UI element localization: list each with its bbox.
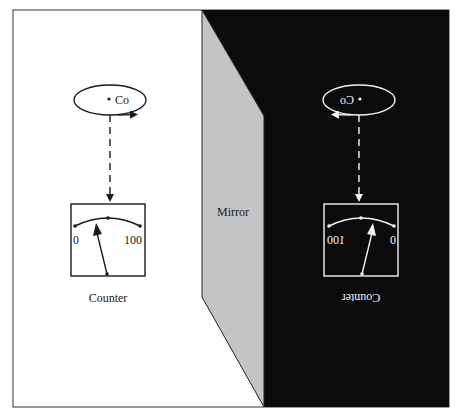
counter-label: Counter (89, 291, 128, 305)
charge-label: Co (115, 93, 129, 107)
mirror-scale-min-label: 0 (390, 233, 396, 247)
mirror-scale-min-tick (392, 224, 396, 228)
mirror-needle-pivot (360, 272, 364, 276)
mirror-world-region (264, 10, 449, 407)
mirror-charge-label: Co (340, 93, 354, 107)
mirror-nucleus-dot (358, 97, 361, 100)
needle-pivot (105, 272, 109, 276)
mirror-scale-max-tick (327, 224, 331, 228)
scale-min-label: 0 (73, 233, 79, 247)
mirror-scale-mid-tick (359, 216, 363, 220)
mirror-label: Mirror (217, 205, 249, 219)
nucleus-dot (107, 97, 110, 100)
scale-max-tick (138, 224, 142, 228)
mirror-symmetry-diagram: Co 0 100 Counter Mirror Co 0 100 Counter (0, 0, 459, 420)
scale-mid-tick (106, 216, 110, 220)
scale-max-label: 100 (124, 233, 142, 247)
scale-min-tick (73, 224, 77, 228)
mirror-counter-label: Counter (342, 291, 381, 305)
mirror-scale-max-label: 100 (327, 233, 345, 247)
